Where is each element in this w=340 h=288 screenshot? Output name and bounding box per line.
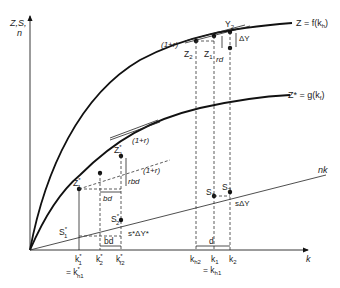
tick-eq-kh1-star: = k*h1 (66, 266, 84, 279)
label-one-plus-r-lower-upper: (1+r) (132, 136, 149, 145)
label-z1: Z1 (204, 49, 213, 60)
label-bd-bottom: bd (104, 236, 114, 246)
y-axis-label: Z,S, (9, 18, 27, 28)
label-bd: bd (103, 194, 112, 203)
label-s1-star: S*1 (59, 226, 68, 239)
label-z2-star: Z*2 (114, 144, 123, 157)
tick-k1-star: k*1 (75, 253, 83, 266)
label-z1-star: Z*1 (73, 177, 82, 190)
label-delta-y: ΔY (239, 34, 250, 43)
nk-line-label: nk (318, 165, 328, 175)
label-rbd: rbd (128, 177, 140, 186)
label-s2-star: S*2 (111, 213, 120, 226)
label-one-plus-r-lower: (1+r) (143, 166, 160, 175)
label-s-star-delta: s*ΔY* (128, 229, 149, 238)
tick-eq-kh1: = kh1 (203, 265, 222, 276)
lower-curve-label: Z* = g(kf) (288, 90, 324, 101)
tick-k1: k1 (211, 254, 219, 265)
label-y2: Y2 (225, 19, 235, 30)
label-s-delta: sΔY (235, 199, 250, 208)
tick-kf2-star: k*f2 (116, 253, 125, 266)
tick-k2-star: k*2 (96, 253, 104, 266)
y-axis-label-n: n (17, 28, 22, 38)
x-axis-label: k (306, 254, 311, 264)
label-d-bottom: d (209, 236, 214, 246)
point-s2-star (119, 218, 123, 222)
tick-k2: k2 (229, 254, 237, 265)
upper-curve-label: Z = f(kh) (296, 18, 328, 29)
growth-diagram: Z,S, n k Z = f(kh) Z* = g(kf) nk (1+r) Z… (0, 0, 340, 288)
label-one-plus-r-upper: (1+r) (161, 40, 178, 49)
label-rd: rd (216, 55, 224, 64)
upper-production-curve (30, 23, 292, 250)
tick-kh2: kh2 (190, 254, 202, 265)
label-z2: Z2 (184, 49, 193, 60)
